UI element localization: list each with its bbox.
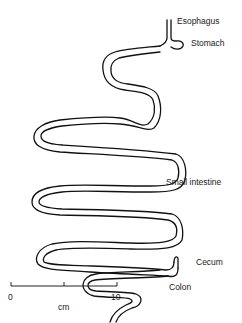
label-colon: Colon (169, 283, 191, 292)
scale-unit-label: cm (58, 303, 69, 312)
colon-shape (83, 270, 168, 322)
scale-start-label: 0 (8, 293, 13, 302)
label-small-intestine: Small intestine (166, 178, 221, 187)
label-cecum: Cecum (196, 258, 223, 267)
gi-tract-drawing (0, 0, 242, 323)
label-stomach: Stomach (191, 39, 225, 48)
scale-end-label: 10 (111, 293, 120, 302)
scale-bar (11, 282, 117, 286)
small-intestine-shape (32, 46, 186, 277)
label-esophagus: Esophagus (177, 17, 220, 26)
